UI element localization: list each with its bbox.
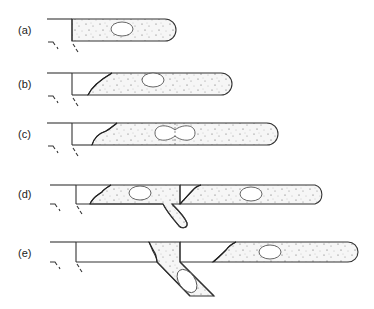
cell <box>240 187 262 201</box>
panel-e: (e) <box>18 242 358 296</box>
panel-label-c: (c) <box>18 128 31 140</box>
broken-wall-mark <box>48 146 58 153</box>
diagram-canvas: (a) (b) (c) (d) <box>0 0 374 309</box>
broken-wall-mark <box>73 148 78 156</box>
panel-a: (a) <box>18 19 176 52</box>
broken-wall-mark <box>48 42 58 49</box>
broken-wall-mark <box>73 98 78 106</box>
panel-label-e: (e) <box>18 247 31 259</box>
channel-fluid-right <box>213 242 358 262</box>
cell <box>111 22 133 36</box>
broken-wall-mark <box>48 96 58 103</box>
broken-wall-mark <box>50 204 60 211</box>
panel-c: (c) <box>18 123 278 156</box>
panel-label-b: (b) <box>18 78 31 90</box>
broken-wall-mark <box>77 206 82 214</box>
broken-wall-mark <box>77 264 82 272</box>
panel-d: (d) <box>18 185 322 228</box>
broken-wall-mark <box>50 262 60 269</box>
broken-wall-mark <box>73 44 78 52</box>
panel-label-d: (d) <box>18 188 31 200</box>
panel-b: (b) <box>18 73 232 106</box>
panel-label-a: (a) <box>18 24 31 36</box>
cell <box>259 245 281 259</box>
cell <box>129 186 151 200</box>
cell <box>142 73 164 87</box>
